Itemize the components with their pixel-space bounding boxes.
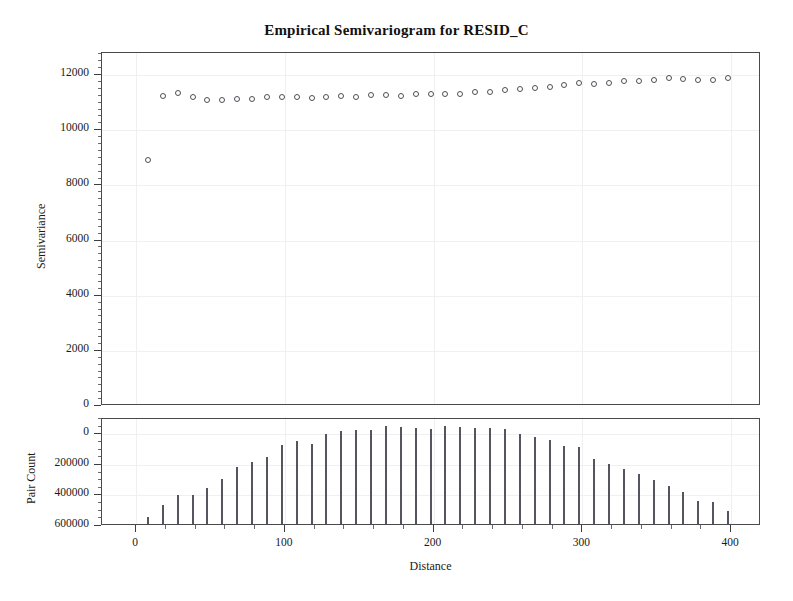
y-minor-tick	[98, 441, 101, 442]
y-minor-tick	[98, 88, 101, 89]
y-minor-tick	[98, 336, 101, 337]
y-minor-tick	[98, 53, 101, 54]
x-minor-tick	[373, 525, 374, 529]
gridline-vertical	[434, 53, 435, 404]
y-minor-tick	[98, 371, 101, 372]
data-point	[532, 85, 538, 91]
bar	[682, 492, 684, 524]
bar	[221, 479, 223, 524]
bar	[668, 486, 670, 524]
y-minor-tick	[98, 205, 101, 206]
y-tick-label: 4000	[39, 287, 89, 299]
y-minor-tick	[98, 384, 101, 385]
y-minor-tick	[98, 456, 101, 457]
data-point	[219, 97, 225, 103]
y-minor-tick	[98, 517, 101, 518]
x-tick-label: 400	[705, 536, 755, 548]
y-minor-tick	[98, 191, 101, 192]
y-minor-tick	[98, 472, 101, 473]
bar	[385, 426, 387, 524]
data-point	[428, 91, 434, 97]
y-tick-mark	[94, 405, 101, 406]
semivariogram-figure: Empirical Semivariogram for RESID_C 0200…	[0, 0, 793, 601]
y-minor-tick	[98, 329, 101, 330]
data-point	[636, 78, 642, 84]
y-minor-tick	[98, 487, 101, 488]
y-minor-tick	[98, 309, 101, 310]
x-minor-tick	[254, 525, 255, 529]
x-tick-mark	[284, 525, 285, 532]
gridline-horizontal	[102, 351, 759, 352]
y-minor-tick	[98, 377, 101, 378]
y-minor-tick	[98, 343, 101, 344]
bar	[578, 447, 580, 525]
x-minor-tick	[314, 525, 315, 529]
data-point	[338, 93, 344, 99]
bar	[400, 427, 402, 524]
y-minor-tick	[98, 157, 101, 158]
bar	[251, 462, 253, 524]
data-point	[383, 92, 389, 98]
bar	[549, 440, 551, 524]
x-minor-tick	[611, 525, 612, 529]
gridline-vertical	[434, 419, 435, 524]
y-minor-tick	[98, 95, 101, 96]
bar	[266, 457, 268, 524]
gridline-vertical	[731, 419, 732, 524]
bar	[415, 428, 417, 524]
y-minor-tick	[98, 109, 101, 110]
y-tick-label: 2000	[39, 342, 89, 354]
x-minor-tick	[165, 525, 166, 529]
paircount-plot-area	[102, 419, 759, 524]
y-minor-tick	[98, 391, 101, 392]
y-minor-tick	[98, 274, 101, 275]
x-tick-label: 0	[110, 536, 160, 548]
y-minor-tick	[98, 115, 101, 116]
y-tick-label: 8000	[39, 176, 89, 188]
bar	[534, 437, 536, 524]
bar	[519, 434, 521, 524]
bar	[206, 488, 208, 524]
bar	[727, 511, 729, 524]
gridline-horizontal	[102, 296, 759, 297]
y-tick-label: 12000	[39, 66, 89, 78]
gridline-vertical	[136, 53, 137, 404]
y-minor-tick	[98, 510, 101, 511]
bar	[653, 480, 655, 524]
bar	[370, 430, 372, 524]
y-tick-mark	[94, 525, 101, 526]
x-minor-tick	[700, 525, 701, 529]
x-tick-label: 200	[408, 536, 458, 548]
data-point	[442, 91, 448, 97]
y-minor-tick	[98, 164, 101, 165]
data-point	[160, 93, 166, 99]
bar	[311, 444, 313, 524]
y-minor-tick	[98, 219, 101, 220]
gridline-vertical	[285, 53, 286, 404]
gridline-vertical	[285, 419, 286, 524]
y-minor-tick	[98, 398, 101, 399]
bar	[474, 428, 476, 524]
page-title: Empirical Semivariogram for RESID_C	[0, 22, 793, 39]
y-minor-tick	[98, 136, 101, 137]
x-tick-label: 100	[259, 536, 309, 548]
gridline-vertical	[582, 419, 583, 524]
y-minor-tick	[98, 502, 101, 503]
y-minor-tick	[98, 479, 101, 480]
y-minor-tick	[98, 171, 101, 172]
bar	[623, 469, 625, 524]
y-minor-tick	[98, 253, 101, 254]
y-minor-tick	[98, 81, 101, 82]
data-point	[264, 94, 270, 100]
data-point	[204, 97, 210, 103]
y-minor-tick	[98, 267, 101, 268]
y-minor-tick	[98, 67, 101, 68]
data-point	[234, 96, 240, 102]
y-tick-label: 0	[21, 425, 89, 437]
data-point	[413, 91, 419, 97]
gridline-horizontal	[102, 75, 759, 76]
x-minor-tick	[224, 525, 225, 529]
y-tick-mark	[94, 464, 101, 465]
data-point	[368, 92, 374, 98]
data-point	[666, 75, 672, 81]
